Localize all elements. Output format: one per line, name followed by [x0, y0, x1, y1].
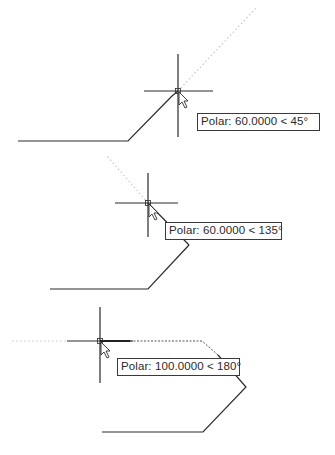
polar-tracking-line	[178, 8, 256, 91]
mouse-pointer-icon	[179, 92, 188, 108]
polyline-segment	[50, 245, 189, 289]
polar-tooltip-180: Polar: 100.0000 < 180°	[117, 358, 240, 376]
polar-tooltip-135: Polar: 60.0000 < 135°	[165, 222, 282, 240]
polar-tooltip-45: Polar: 60.0000 < 45°	[197, 113, 320, 131]
mouse-pointer-icon	[101, 342, 110, 358]
previous-segment-dashed	[202, 341, 218, 355]
polar-tracking-line	[106, 155, 148, 203]
polyline-segment	[18, 96, 172, 141]
mouse-pointer-icon	[149, 204, 158, 220]
